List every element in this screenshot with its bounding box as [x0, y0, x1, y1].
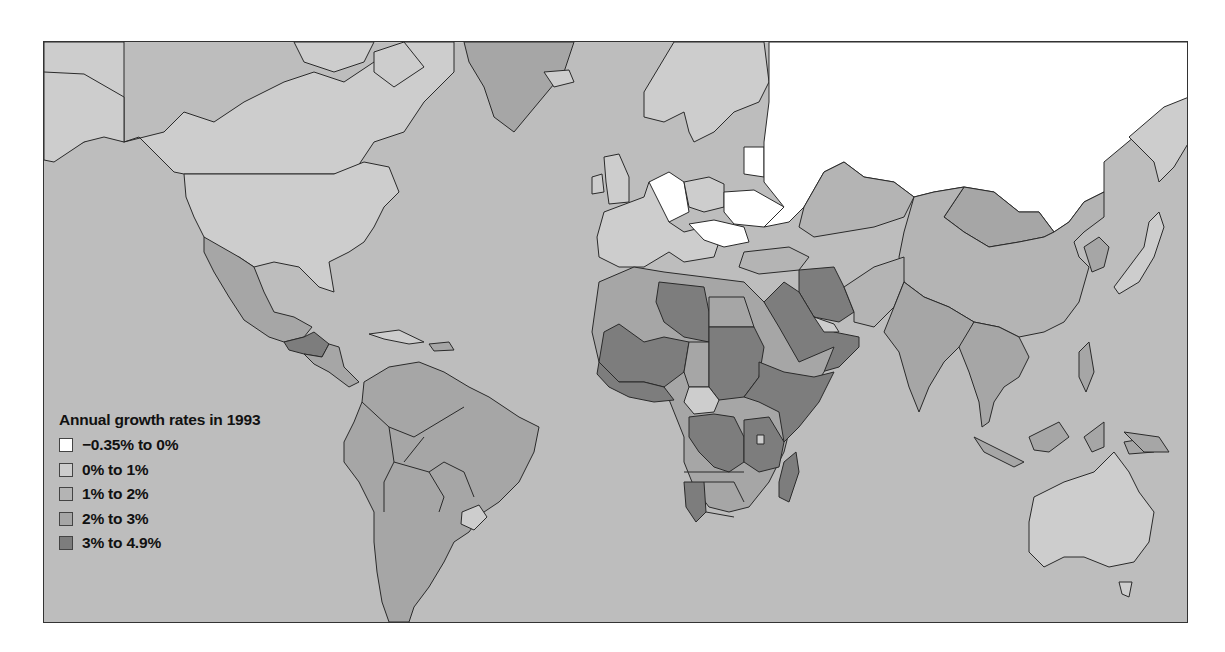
legend-item: 3% to 4.9%: [59, 531, 260, 556]
legend-label: 2% to 3%: [82, 510, 148, 528]
legend-swatch: [59, 463, 73, 477]
region-poland: [684, 177, 724, 212]
region-southeast-asia: [959, 322, 1029, 427]
region-hispaniola: [429, 342, 454, 351]
legend-item: 0% to 1%: [59, 458, 260, 483]
region-madagascar: [779, 452, 799, 502]
legend-label: 1% to 2%: [82, 485, 148, 503]
region-lake-victoria: [757, 435, 764, 444]
region-uk: [604, 154, 629, 204]
region-cuba: [369, 330, 424, 344]
map-frame: Annual growth rates in 1993 −0.35% to 0%…: [43, 41, 1188, 623]
region-australia: [1029, 452, 1154, 567]
region-ireland: [592, 174, 604, 194]
legend-label: −0.35% to 0%: [82, 436, 178, 454]
legend-swatch: [59, 512, 73, 526]
region-turkey: [739, 247, 809, 274]
legend-item: −0.35% to 0%: [59, 433, 260, 458]
region-japan: [1114, 212, 1164, 294]
legend-swatch: [59, 438, 73, 452]
legend-swatch: [59, 536, 73, 550]
region-philippines: [1079, 342, 1094, 392]
region-scandinavia: [644, 42, 769, 142]
legend-label: 3% to 4.9%: [82, 534, 161, 552]
legend-item: 1% to 2%: [59, 482, 260, 507]
legend-label: 0% to 1%: [82, 461, 148, 479]
region-tasmania: [1119, 582, 1132, 597]
legend-title: Annual growth rates in 1993: [59, 411, 260, 429]
region-baltics: [744, 147, 764, 177]
legend-item: 2% to 3%: [59, 507, 260, 532]
region-indonesia: [974, 422, 1154, 467]
map-legend: Annual growth rates in 1993 −0.35% to 0%…: [59, 411, 260, 556]
legend-swatch: [59, 487, 73, 501]
region-chad: [684, 342, 709, 387]
region-namibia: [684, 482, 706, 522]
region-greenland: [464, 42, 574, 132]
